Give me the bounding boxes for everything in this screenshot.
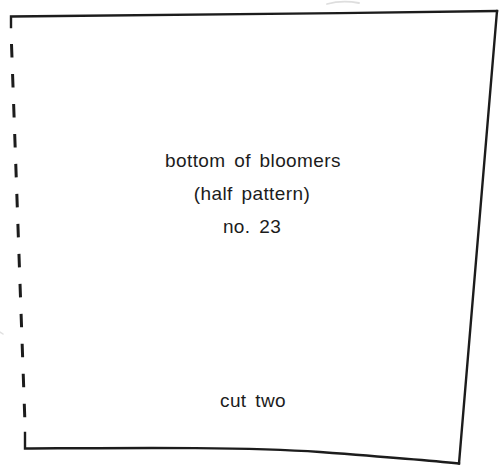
scan-speck bbox=[0, 332, 3, 334]
pattern-piece-number: no. 23 bbox=[223, 217, 281, 236]
pattern-piece-title: bottom of bloomers bbox=[165, 151, 341, 170]
top-edge-line bbox=[11, 11, 497, 27]
bottom-edge-line bbox=[25, 433, 459, 464]
pattern-piece-diagram: bottom of bloomers (half pattern) no. 23… bbox=[0, 0, 504, 472]
cutting-instruction: cut two bbox=[220, 391, 286, 410]
scan-artifact-mark bbox=[327, 2, 359, 4]
fold-line-icon bbox=[12, 44, 26, 424]
pattern-piece-subtitle: (half pattern) bbox=[194, 184, 310, 203]
right-edge-line bbox=[459, 11, 497, 464]
